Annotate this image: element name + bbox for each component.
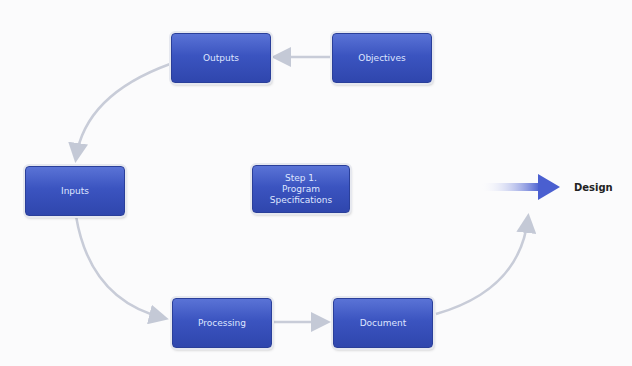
next-step-design: Design	[574, 182, 613, 193]
node-program-specifications: Step 1. Program Specifications	[252, 165, 350, 213]
node-outputs: Outputs	[171, 33, 271, 83]
node-processing: Processing	[172, 298, 272, 348]
node-objectives: Objectives	[332, 33, 432, 83]
node-document: Document	[333, 298, 433, 348]
node-inputs: Inputs	[25, 166, 125, 216]
arrow-outputs-inputs	[76, 64, 170, 158]
design-arrow-head	[538, 174, 560, 200]
arrow-inputs-processing	[76, 216, 164, 318]
arrow-document-design	[436, 218, 528, 314]
